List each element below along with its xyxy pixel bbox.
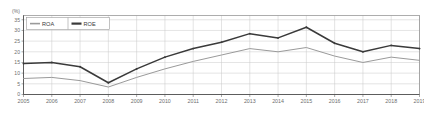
y-tick-label: 10 xyxy=(14,70,20,76)
x-tick-label: 2006 xyxy=(46,98,58,104)
data-point-roe xyxy=(362,51,364,53)
data-point-roe xyxy=(51,62,53,64)
data-point-roe xyxy=(419,48,421,50)
data-point-roe xyxy=(136,68,138,70)
data-point-roe xyxy=(334,42,336,44)
x-tick-label: 2018 xyxy=(385,98,397,104)
x-tick-label: 2012 xyxy=(216,98,228,104)
y-tick-label: 20 xyxy=(14,49,20,55)
data-point-roe xyxy=(249,33,251,35)
x-axis-tick-labels: 2005200620072008200920102011201220132014… xyxy=(18,98,424,104)
data-point-roe xyxy=(23,63,25,65)
x-tick-label: 2016 xyxy=(329,98,341,104)
y-tick-label: 0 xyxy=(17,91,20,97)
legend-label-roe: ROE xyxy=(84,21,96,27)
legend-label-roa: ROA xyxy=(42,21,54,27)
x-tick-label: 2005 xyxy=(18,98,30,104)
x-tick-label: 2013 xyxy=(244,98,256,104)
data-point-roe xyxy=(107,82,109,84)
x-tick-label: 2011 xyxy=(188,98,199,104)
data-point-roe xyxy=(305,26,307,28)
chart-container: (%) 05101520253035 200520062007200820092… xyxy=(0,0,424,117)
y-axis-unit-label: (%) xyxy=(12,8,20,14)
data-point-roe xyxy=(192,48,194,50)
chart-legend: ROA ROE xyxy=(27,18,110,30)
data-point-roe xyxy=(221,41,223,43)
x-tick-label: 2007 xyxy=(74,98,86,104)
y-tick-label: 15 xyxy=(14,59,20,65)
x-tick-label: 2019 xyxy=(414,98,424,104)
y-tick-label: 5 xyxy=(17,81,20,87)
x-tick-label: 2009 xyxy=(131,98,143,104)
x-tick-label: 2015 xyxy=(300,98,312,104)
y-tick-label: 35 xyxy=(14,17,20,23)
data-point-roe xyxy=(390,44,392,46)
data-point-roe xyxy=(79,66,81,68)
roa-roe-line-chart: (%) 05101520253035 200520062007200820092… xyxy=(0,0,424,117)
x-tick-label: 2008 xyxy=(102,98,114,104)
y-tick-label: 30 xyxy=(14,27,20,33)
x-tick-label: 2014 xyxy=(272,98,284,104)
x-tick-label: 2017 xyxy=(357,98,369,104)
x-tick-label: 2010 xyxy=(159,98,171,104)
y-tick-label: 25 xyxy=(14,38,20,44)
data-point-roe xyxy=(164,56,166,58)
data-point-roe xyxy=(277,37,279,39)
